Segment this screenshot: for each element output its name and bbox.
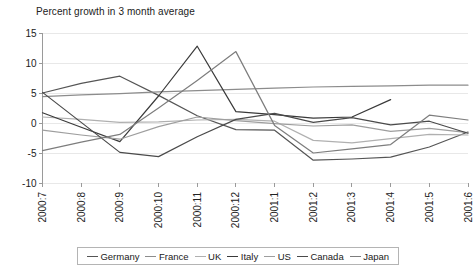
y-tick-labels: 151050-5-10 (22, 28, 37, 189)
legend-swatch-icon (350, 256, 361, 257)
x-tick-label: 2001:4 (385, 192, 396, 223)
legend-swatch-icon (145, 256, 156, 257)
chart-container: Percent growth in 3 month average 151050… (0, 0, 476, 274)
x-tick-labels: 2000:72000:82000:92000:102000:112000:122… (37, 192, 474, 229)
legend-swatch-icon (297, 256, 308, 257)
legend-label: US (278, 251, 291, 262)
x-tick-label: 2000:9 (114, 192, 125, 223)
legend-item-us[interactable]: US (261, 251, 294, 262)
legend-item-germany[interactable]: Germany (84, 251, 143, 262)
legend-label: France (159, 251, 189, 262)
y-tick-label: 15 (25, 28, 37, 39)
x-tick-label: 2001:2 (308, 192, 319, 223)
chart-legend: GermanyFranceUKItalyUSCanadaJapan (77, 247, 399, 265)
y-tick-label: 10 (25, 58, 37, 69)
x-tick-label: 2001:6 (463, 192, 474, 223)
legend-item-canada[interactable]: Canada (294, 251, 347, 262)
legend-swatch-icon (87, 256, 98, 257)
x-tick-label: 2000:8 (76, 192, 87, 223)
legend-label: Japan (363, 251, 389, 262)
x-tick-label: 2001:5 (424, 192, 435, 223)
legend-label: UK (208, 251, 221, 262)
legend-item-uk[interactable]: UK (192, 251, 225, 262)
chart-plot-svg: 151050-5-10 2000:72000:82000:92000:10200… (0, 0, 476, 274)
x-tick-label: 2001:3 (346, 192, 357, 223)
x-axis (43, 183, 469, 187)
legend-swatch-icon (195, 256, 206, 257)
y-tick-label: -5 (28, 148, 37, 159)
y-axis (39, 33, 43, 183)
legend-label: Germany (100, 251, 139, 262)
x-tick-label: 2000:7 (37, 192, 48, 223)
x-tick-label: 2001:1 (269, 192, 280, 223)
series-line-france (43, 85, 469, 96)
y-tick-label: 5 (31, 88, 37, 99)
series-line-canada (43, 92, 469, 156)
x-tick-label: 2000:11 (192, 192, 203, 228)
legend-swatch-icon (264, 256, 275, 257)
x-tick-label: 2000:10 (153, 192, 164, 229)
legend-item-italy[interactable]: Italy (224, 251, 261, 262)
legend-label: Italy (241, 251, 258, 262)
gridlines (43, 33, 469, 183)
y-tick-label: 0 (31, 118, 37, 129)
legend-swatch-icon (227, 256, 238, 257)
legend-item-france[interactable]: France (142, 251, 191, 262)
x-tick-label: 2000:12 (230, 192, 241, 229)
y-tick-label: -10 (22, 178, 37, 189)
legend-item-japan[interactable]: Japan (347, 251, 392, 262)
legend-label: Canada (310, 251, 343, 262)
